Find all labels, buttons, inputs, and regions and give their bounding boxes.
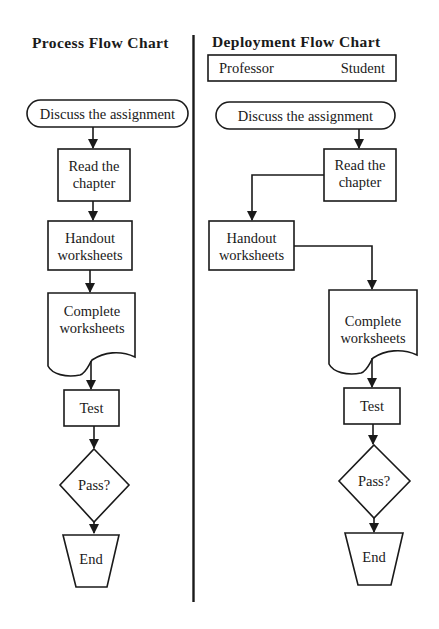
deployment-node-test: Test [344, 388, 400, 424]
node-label: Read the [68, 158, 119, 174]
deployment-node-read-chapter: Read the chapter [324, 149, 396, 201]
deployment-node-end: End [345, 533, 403, 585]
deployment-node-complete-worksheets: Complete worksheets [329, 290, 417, 374]
node-label: Handout [227, 230, 277, 246]
node-label: worksheets [219, 247, 285, 263]
node-label: worksheets [340, 330, 406, 346]
node-label: Pass? [358, 473, 390, 489]
process-chart-title: Process Flow Chart [32, 34, 169, 51]
node-label: Discuss the assignment [40, 106, 175, 122]
deployment-node-discuss: Discuss the assignment [216, 102, 395, 129]
node-label: worksheets [59, 320, 125, 336]
node-label: Test [360, 398, 384, 414]
deployment-flow-chart: Deployment Flow Chart Professor Student … [208, 33, 417, 585]
node-label: chapter [339, 174, 382, 190]
node-label: Complete [345, 313, 401, 329]
node-label: Complete [64, 303, 120, 319]
deployment-node-pass-decision: Pass? [339, 445, 410, 518]
node-label: worksheets [57, 247, 123, 263]
flowchart-canvas: Process Flow Chart Discuss the assignmen… [0, 0, 439, 629]
node-label: chapter [73, 175, 116, 191]
node-label: Handout [65, 230, 115, 246]
lane-label-student: Student [341, 60, 385, 76]
process-node-pass-decision: Pass? [60, 449, 129, 522]
process-node-discuss: Discuss the assignment [27, 100, 188, 127]
node-label: Test [80, 400, 104, 416]
node-label: Discuss the assignment [238, 108, 373, 124]
process-node-test: Test [64, 390, 119, 426]
arrow [252, 175, 324, 220]
process-node-read-chapter: Read the chapter [58, 149, 130, 201]
swimlane-header: Professor Student [208, 55, 396, 81]
deployment-chart-title: Deployment Flow Chart [212, 33, 381, 50]
node-label: End [79, 551, 103, 567]
process-flow-chart: Process Flow Chart Discuss the assignmen… [27, 34, 188, 587]
node-label: Pass? [78, 477, 110, 493]
node-label: Read the [334, 157, 385, 173]
arrow [294, 246, 372, 289]
node-label: End [362, 549, 386, 565]
lane-label-professor: Professor [219, 60, 274, 76]
deployment-node-handout-worksheets: Handout worksheets [209, 221, 294, 270]
process-node-handout-worksheets: Handout worksheets [48, 221, 132, 270]
process-node-end: End [63, 535, 119, 587]
